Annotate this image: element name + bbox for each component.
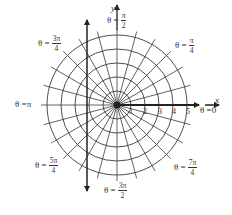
radial-line bbox=[117, 105, 137, 178]
radial-line bbox=[117, 85, 190, 105]
tick-label-1: 1 bbox=[129, 108, 133, 116]
radial-line bbox=[44, 105, 117, 125]
angle-label-3pi-over-4: θ = 3π 4 bbox=[38, 35, 61, 52]
fraction: π 4 bbox=[189, 37, 195, 54]
angle-label-0: θ = 0 bbox=[200, 106, 216, 115]
fraction: 7π 4 bbox=[188, 159, 198, 176]
fraction: 3π 4 bbox=[52, 35, 62, 52]
fraction: π 2 bbox=[121, 12, 127, 29]
tick-label-5: 5 bbox=[186, 108, 190, 116]
tick-label-2: 2 bbox=[143, 108, 147, 116]
radial-line bbox=[44, 85, 117, 105]
angle-label-pi: θ = π bbox=[15, 100, 31, 109]
fraction: 3π 2 bbox=[118, 182, 128, 199]
radial-line bbox=[97, 105, 117, 178]
radial-line bbox=[117, 32, 137, 105]
x-axis-label: x bbox=[215, 96, 219, 105]
fraction: 5π 4 bbox=[49, 157, 59, 174]
angle-label-pi-over-4: θ = π 4 bbox=[175, 37, 194, 54]
tick-label-4: 4 bbox=[172, 108, 176, 116]
tick-label-3: 3 bbox=[158, 108, 162, 116]
angle-label-3pi-over-2: θ = 3π 2 bbox=[104, 182, 127, 199]
angle-label-pi-over-2: θ = π 2 bbox=[107, 12, 126, 29]
angle-label-5pi-over-4: θ = 5π 4 bbox=[35, 157, 58, 174]
angle-label-7pi-over-4: θ = 7π 4 bbox=[174, 159, 197, 176]
radial-line bbox=[97, 32, 117, 105]
radial-line bbox=[117, 105, 190, 125]
